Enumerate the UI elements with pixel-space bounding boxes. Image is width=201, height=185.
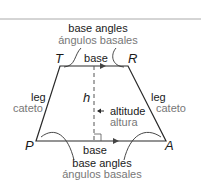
altitude-pointer-head — [97, 109, 101, 114]
top-angles-label-en: base angles — [68, 22, 128, 34]
altitude-symbol: h — [83, 90, 90, 105]
trapezoid — [36, 66, 166, 141]
trapezoid-diagram: base angles ángulos basales T R base leg… — [0, 0, 201, 185]
top-base-label: base — [84, 52, 108, 64]
vertex-T: T — [55, 51, 64, 66]
vertex-P: P — [25, 138, 34, 153]
bottom-angles-label-es: ángulos basales — [62, 168, 142, 180]
altitude-label-es: altura — [110, 116, 138, 128]
vertex-R: R — [128, 51, 137, 66]
top-angles-label-es: ángulos basales — [58, 34, 138, 46]
top-right-angle-arc — [113, 48, 124, 67]
vertex-A: A — [164, 138, 174, 153]
bottom-right-angle-arc — [124, 132, 161, 160]
bottom-left-angle-arc — [41, 132, 74, 160]
bottom-base-label: base — [83, 144, 107, 156]
right-angle-mark — [94, 134, 101, 141]
parallel-arrow-bottom — [113, 138, 119, 144]
right-leg-label-es: cateto — [156, 102, 186, 114]
left-leg-label-es: cateto — [13, 102, 43, 114]
top-left-angle-arc — [64, 48, 81, 67]
